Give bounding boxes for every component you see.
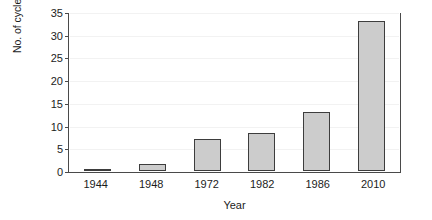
x-axis-tick-labels: 194419481972198219862010	[68, 178, 401, 190]
y-axis-tick-label: 10	[51, 121, 63, 133]
x-axis-tick	[235, 173, 291, 177]
y-axis-tick-label: 30	[51, 30, 63, 42]
y-axis-tick-label: 25	[51, 52, 63, 64]
y-axis-title: No. of cycle-rickshaws per 1,000 residen…	[2, 0, 46, 58]
x-axis-title: Year	[68, 199, 401, 211]
x-axis-tick-label: 1972	[179, 178, 235, 190]
y-axis-tick-mark	[65, 36, 69, 37]
bar	[194, 139, 221, 172]
y-axis-tick-label: 5	[57, 143, 63, 155]
bar	[248, 133, 275, 171]
bar-cell	[125, 13, 180, 171]
x-axis-tick	[68, 173, 124, 177]
y-axis-tick-label: 20	[51, 75, 63, 87]
bar	[139, 164, 166, 171]
bar	[84, 169, 111, 171]
y-axis-tick-mark	[65, 81, 69, 82]
x-axis-tick-label: 1948	[124, 178, 180, 190]
bar-cell	[344, 13, 399, 171]
bar	[303, 112, 330, 171]
bar-cell	[70, 13, 125, 171]
y-axis-tick-label: 15	[51, 98, 63, 110]
x-axis-tick	[124, 173, 180, 177]
x-axis-tick-label: 1986	[290, 178, 346, 190]
x-axis-tick-label: 1982	[235, 178, 291, 190]
x-axis-tick	[346, 173, 402, 177]
y-axis-tick-mark	[65, 104, 69, 105]
bar-series	[70, 13, 399, 171]
y-axis-tick-mark	[65, 13, 69, 14]
bar-chart-figure: No. of cycle-rickshaws per 1,000 residen…	[0, 0, 432, 220]
plot-region: 05101520253035	[68, 13, 401, 173]
bar-cell	[234, 13, 289, 171]
plot-area: 05101520253035	[68, 13, 401, 173]
x-axis-tick-label: 2010	[346, 178, 402, 190]
bar-cell	[289, 13, 344, 171]
y-axis-tick-label: 0	[57, 166, 63, 178]
y-axis-tick-mark	[65, 58, 69, 59]
x-axis-ticks	[68, 173, 401, 177]
x-axis-tick-label: 1944	[68, 178, 124, 190]
bar	[358, 21, 385, 171]
x-axis-tick	[179, 173, 235, 177]
y-axis-tick-label: 35	[51, 7, 63, 19]
y-axis-tick-mark	[65, 127, 69, 128]
y-axis-tick-mark	[65, 149, 69, 150]
x-axis-tick	[290, 173, 346, 177]
bar-cell	[180, 13, 235, 171]
